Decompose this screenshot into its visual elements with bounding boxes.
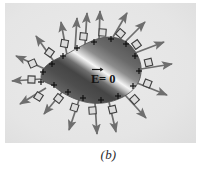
right-angle-mark [144,58,152,66]
figure-root: E = 0 [0,0,217,177]
efield-equals-zero: = 0 [99,72,116,86]
right-angle-mark [60,39,68,47]
figure-caption: (b) [0,147,217,163]
right-angle-mark [89,107,96,114]
right-angle-mark [28,76,35,83]
conductor-field-diagram: E = 0 [5,3,196,143]
right-angle-mark [70,103,79,112]
right-angle-mark [99,29,106,36]
figure-image-panel: E = 0 [5,3,196,143]
right-angle-mark [108,105,116,113]
right-angle-mark [80,33,88,41]
